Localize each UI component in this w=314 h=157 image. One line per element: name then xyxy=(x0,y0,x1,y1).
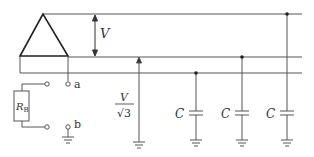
cap-3-label: C xyxy=(266,107,275,121)
ground-icon xyxy=(133,142,145,148)
terminal-a-label: a xyxy=(74,78,81,91)
terminal-b[interactable] xyxy=(66,125,70,129)
terminal-b-label: b xyxy=(74,118,81,131)
phase-voltage-denominator: √3 xyxy=(117,107,131,120)
rb-terminal-bottom[interactable] xyxy=(45,125,49,129)
circuit-diagram: V V √3 RB a b xyxy=(0,0,314,157)
cap-1-label: C xyxy=(175,107,184,121)
capacitor-2 xyxy=(235,57,249,146)
resistor-label: RB xyxy=(15,101,29,114)
cap-2-label: C xyxy=(221,107,230,121)
capacitor-3 xyxy=(280,14,294,146)
rb-terminal-top[interactable] xyxy=(45,82,49,86)
phase-voltage-numerator: V xyxy=(120,91,129,104)
terminal-a[interactable] xyxy=(66,82,70,86)
junction-dot xyxy=(194,71,198,75)
delta-source-icon xyxy=(20,14,68,56)
line-voltage-arrow xyxy=(93,15,98,56)
ground-icon xyxy=(62,129,74,143)
line-voltage-label: V xyxy=(100,26,111,41)
junction-dot xyxy=(285,12,289,16)
phase-voltage-arrow xyxy=(137,57,142,142)
capacitor-1 xyxy=(189,73,203,146)
junction-dot xyxy=(240,55,244,59)
